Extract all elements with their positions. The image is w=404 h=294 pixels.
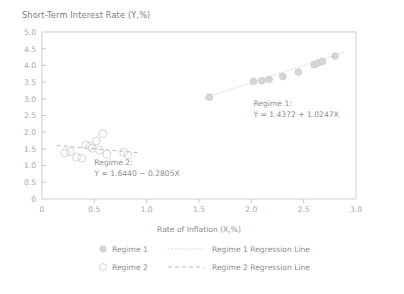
chart-legend: Regime 1Regime 1 Regression LineRegime 2… [100, 245, 311, 272]
x-tick-label: 2.5 [298, 205, 310, 214]
data-point [99, 130, 107, 138]
legend-label-marker: Regime 2 [112, 263, 148, 272]
legend-label-line: Regime 2 Regression Line [212, 263, 310, 272]
y-tick-label: 3.0 [24, 95, 36, 104]
scatter-plot: Short-Term Interest Rate (Y,%) 00.51.01.… [0, 0, 404, 294]
regime1-annotation-line2: Y = 1.4372 + 1.0247X [252, 110, 338, 119]
regime2-annotation-line1: Regime 2: [94, 158, 132, 167]
data-point [250, 78, 257, 85]
y-tick-label: 0 [31, 195, 36, 204]
y-axis-tick-labels: 00.51.01.52.02.53.03.54.04.55.0 [24, 28, 36, 204]
y-tick-label: 1.5 [24, 145, 36, 154]
series-regime-1-points [206, 53, 338, 101]
data-point [66, 148, 74, 156]
x-axis-tick-labels: 00.51.01.52.02.53.0 [40, 205, 363, 214]
legend-marker-regime-2 [100, 264, 107, 271]
x-tick-label: 0.5 [88, 205, 100, 214]
data-point [61, 149, 69, 157]
x-tick-label: 3.0 [350, 205, 362, 214]
legend-label-marker: Regime 1 [112, 245, 148, 254]
regression-lines [57, 52, 344, 152]
data-point [266, 76, 273, 83]
x-tick-label: 2.0 [245, 205, 257, 214]
data-point [279, 73, 286, 80]
data-point [332, 53, 339, 60]
y-tick-label: 3.5 [24, 78, 36, 87]
data-point [73, 153, 81, 161]
data-point [78, 154, 86, 162]
x-tick-label: 1.5 [193, 205, 205, 214]
data-point [206, 94, 213, 101]
legend-label-line: Regime 1 Regression Line [212, 245, 310, 254]
y-tick-label: 2.5 [24, 111, 36, 120]
y-tick-label: 2.0 [24, 128, 36, 137]
y-tick-label: 5.0 [24, 28, 36, 37]
x-tick-label: 0 [40, 205, 45, 214]
x-tick-label: 1.0 [141, 205, 153, 214]
chart-annotations: Regime 1:Y = 1.4372 + 1.0247XRegime 2:Y … [93, 99, 338, 178]
data-point [295, 69, 302, 76]
y-tick-label: 1.0 [24, 161, 36, 170]
data-point [258, 77, 265, 84]
legend-marker-regime-1 [100, 246, 106, 252]
data-point [86, 142, 94, 150]
regime2-annotation-line2: Y = 1.6440 − 0.2805X [93, 169, 179, 178]
x-axis-title: Rate of Inflation (X,%) [157, 225, 241, 234]
regime1-annotation-line1: Regime 1: [253, 99, 291, 108]
y-tick-label: 4.5 [24, 45, 36, 54]
chart-title: Short-Term Interest Rate (Y,%) [22, 10, 150, 20]
y-tick-label: 0.5 [24, 178, 36, 187]
data-point [96, 146, 104, 154]
data-point [93, 137, 101, 145]
axis-tickmarks [42, 49, 304, 203]
chart-container: Short-Term Interest Rate (Y,%) 00.51.01.… [0, 0, 404, 294]
y-tick-label: 4.0 [24, 61, 36, 70]
data-point [319, 58, 326, 65]
